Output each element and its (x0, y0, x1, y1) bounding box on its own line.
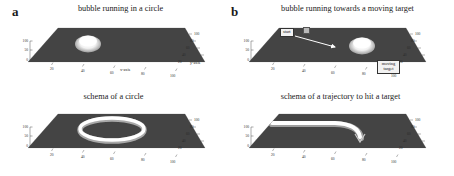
y-tick-80: 80 (411, 125, 415, 129)
panel-b: b bubble running towards a moving target (227, 0, 454, 88)
start-annotation: start (280, 28, 294, 37)
x-axis-d (273, 149, 399, 158)
z-tick-50: 50 (24, 134, 28, 138)
x-axis-a (52, 63, 178, 72)
z-tick-0: 0 (247, 144, 249, 148)
z-tick-100: 100 (23, 125, 29, 129)
y-tick-100: 100 (415, 118, 421, 122)
x-tick-100: 100 (391, 74, 397, 78)
y-tick-20: 20 (178, 146, 182, 150)
z-tick-100: 100 (23, 39, 29, 43)
panel-d: schema of a trajectory to hit a target (227, 88, 454, 176)
x-tick-40: 40 (302, 155, 306, 159)
y-tick-80: 80 (190, 39, 194, 43)
z-tick-0: 0 (26, 58, 28, 62)
y-tick-100: 100 (194, 118, 200, 122)
y-tick-80: 80 (411, 39, 415, 43)
y-tick-40: 40 (182, 139, 186, 143)
x-tick-20: 20 (271, 67, 275, 71)
y-tick-20: 20 (399, 146, 403, 150)
y-tick-60: 60 (407, 46, 411, 50)
panel-d-axes: 100 50 0 20 (227, 88, 454, 176)
z-tick-0: 0 (26, 144, 28, 148)
panel-c-axes: 100 50 0 20 40 (0, 88, 227, 176)
panel-b-axes: 100 50 0 20 (227, 0, 454, 88)
x-tick-40: 40 (81, 69, 85, 73)
start-marker (303, 27, 310, 34)
z-tick-50: 50 (245, 48, 249, 52)
panel-a: a bubble running in a circle (0, 0, 227, 88)
x-axis-label: x-axis (120, 67, 131, 72)
y-tick-40: 40 (403, 139, 407, 143)
x-tick-80: 80 (141, 72, 145, 76)
z-tick-0: 0 (247, 58, 249, 62)
x-tick-20: 20 (271, 153, 275, 157)
y-tick-60: 60 (407, 132, 411, 136)
x-tick-60: 60 (331, 157, 335, 161)
x-tick-20: 20 (50, 153, 54, 157)
x-tick-100: 100 (170, 160, 176, 164)
y-tick-80: 80 (190, 125, 194, 129)
bubble-b (349, 38, 375, 55)
y-tick-60: 60 (186, 132, 190, 136)
x-tick-40: 40 (81, 155, 85, 159)
y-tick-100: 100 (194, 32, 200, 36)
x-tick-20: 20 (50, 67, 54, 71)
moving-target-annotation: movingtarget (377, 60, 400, 74)
panel-c: schema of a circle (0, 88, 227, 176)
z-tick-50: 50 (24, 48, 28, 52)
x-tick-60: 60 (110, 157, 114, 161)
y-tick-20: 20 (178, 60, 182, 64)
bubble-a (75, 36, 101, 53)
z-tick-100: 100 (244, 125, 250, 129)
x-tick-80: 80 (362, 158, 366, 162)
x-tick-80: 80 (141, 158, 145, 162)
z-tick-100: 100 (244, 39, 250, 43)
x-axis-c (52, 149, 178, 158)
y-axis-label: y-axis (190, 60, 201, 65)
x-tick-40: 40 (302, 69, 306, 73)
figure-container: a bubble running in a circle (0, 0, 454, 176)
z-tick-50: 50 (245, 134, 249, 138)
y-tick-40: 40 (403, 53, 407, 57)
x-tick-100: 100 (391, 160, 397, 164)
y-tick-60: 60 (186, 46, 190, 50)
panel-a-axes: 100 50 0 (0, 0, 227, 88)
moving-target-line2: target (384, 66, 394, 71)
y-tick-100: 100 (415, 32, 421, 36)
x-tick-100: 100 (170, 74, 176, 78)
y-tick-40: 40 (182, 53, 186, 57)
x-tick-60: 60 (110, 71, 114, 75)
x-tick-80: 80 (362, 72, 366, 76)
x-tick-60: 60 (331, 71, 335, 75)
